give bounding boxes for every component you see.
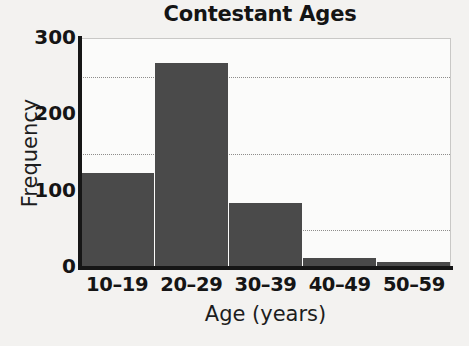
histogram-figure: Contestant Ages Frequency 300 200 100 0 … <box>0 0 469 346</box>
x-tick-label-4: 50–59 <box>377 272 451 300</box>
x-tick-label-2: 30–39 <box>228 272 302 300</box>
x-tick-label-0: 10–19 <box>80 272 154 300</box>
chart-title: Contestant Ages <box>60 2 460 26</box>
y-tick-label: 200 <box>16 103 76 123</box>
x-axis-title: Age (years) <box>80 301 451 327</box>
x-axis-line <box>78 266 453 270</box>
y-tick-label: 0 <box>16 256 76 276</box>
y-tick-label: 100 <box>16 180 76 200</box>
y-axis-line <box>78 36 82 270</box>
x-tick-label-3: 40–49 <box>303 272 377 300</box>
bar-series <box>80 39 450 268</box>
y-axis-tick-labels: 300 200 100 0 <box>10 38 76 268</box>
x-axis-tick-labels: 10–19 20–29 30–39 40–49 50–59 <box>80 272 451 300</box>
plot-area <box>80 38 451 268</box>
bar-10-19 <box>80 173 154 268</box>
bar-30-39 <box>228 203 302 268</box>
bar-20-29 <box>154 63 228 268</box>
y-tick-label: 300 <box>16 27 76 47</box>
x-tick-label-1: 20–29 <box>154 272 228 300</box>
